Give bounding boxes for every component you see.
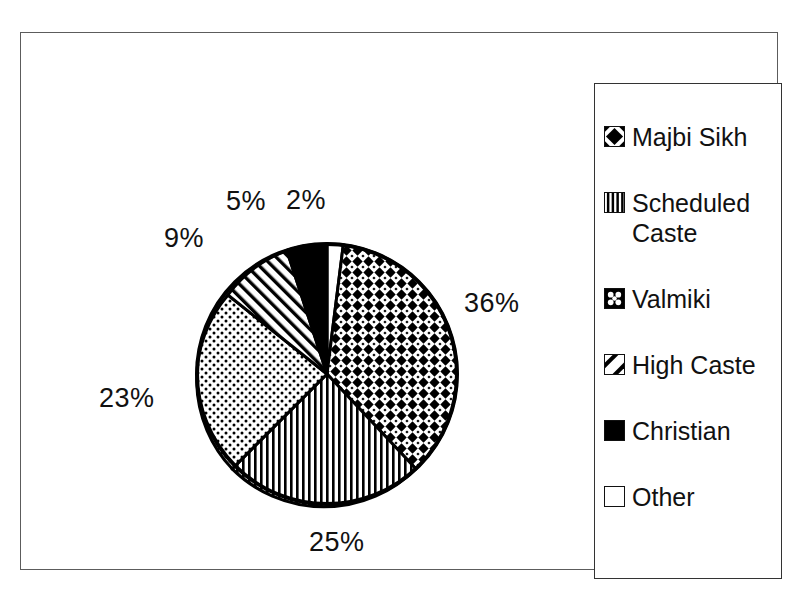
legend-swatch-vertical-stripes-icon [604, 192, 625, 213]
legend-swatch-checkerboard-diamond-icon [604, 126, 625, 147]
legend-label-valmiki: Valmiki [632, 284, 711, 314]
legend-label-majbi-sikh: Majbi Sikh [632, 122, 747, 152]
legend-list: Majbi Sikh Scheduled Caste [604, 122, 775, 548]
pie-label-valmiki: 23% [99, 383, 155, 414]
pie-label-other: 2% [286, 185, 326, 216]
legend-item-majbi-sikh: Majbi Sikh [604, 122, 775, 152]
pie-chart-svg [176, 223, 478, 525]
pie-label-scheduled-caste: 25% [309, 527, 365, 558]
legend-label-scheduled-caste: Scheduled Caste [632, 188, 775, 248]
pie-label-majbi-sikh: 36% [464, 288, 520, 319]
legend-item-valmiki: Valmiki [604, 284, 775, 314]
legend-label-christian: Christian [632, 416, 731, 446]
legend-swatch-solid-black-icon [604, 420, 625, 441]
chart-page: 36% 25% 23% 9% 5% 2% [0, 0, 799, 591]
figure-frame: 36% 25% 23% 9% 5% 2% [20, 32, 778, 570]
legend-item-other: Other [604, 482, 775, 512]
legend: Majbi Sikh Scheduled Caste [594, 83, 782, 579]
legend-swatch-fine-dots-icon [604, 288, 625, 309]
legend-label-high-caste: High Caste [632, 350, 756, 380]
legend-label-other: Other [632, 482, 695, 512]
pie-label-high-caste: 9% [164, 223, 204, 254]
legend-swatch-empty-white-icon [604, 486, 625, 507]
legend-item-scheduled-caste: Scheduled Caste [604, 188, 775, 248]
legend-item-christian: Christian [604, 416, 775, 446]
pie-label-christian: 5% [226, 186, 266, 217]
pie-chart [176, 223, 478, 525]
legend-item-high-caste: High Caste [604, 350, 775, 380]
legend-swatch-diagonal-stripes-icon [604, 354, 625, 375]
